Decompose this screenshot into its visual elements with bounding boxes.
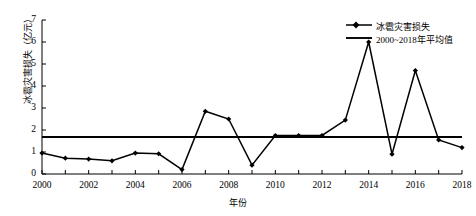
x-tick-label: 2002 bbox=[69, 180, 109, 190]
data-point-marker bbox=[436, 137, 441, 142]
x-tick-label: 2006 bbox=[162, 180, 202, 190]
x-tick-label: 2000 bbox=[22, 180, 62, 190]
x-tick-label: 2004 bbox=[115, 180, 155, 190]
data-point-marker bbox=[39, 151, 44, 156]
y-axis-ticks bbox=[42, 20, 46, 174]
y-tick-label: 7 bbox=[20, 14, 36, 24]
y-tick-label: 0 bbox=[20, 168, 36, 178]
legend-label-average: 2000~2018年平均值 bbox=[376, 33, 453, 46]
x-tick-label: 2008 bbox=[209, 180, 249, 190]
data-point-marker bbox=[86, 156, 91, 161]
hail-loss-line-chart: 冰雹灾害损失 2000~2018年平均值 冰雹灾害损失（亿元） 年份 01234… bbox=[0, 0, 476, 216]
data-point-marker bbox=[203, 109, 208, 114]
data-point-marker bbox=[366, 39, 371, 44]
y-tick-label: 1 bbox=[20, 146, 36, 156]
y-tick-label: 2 bbox=[20, 124, 36, 134]
y-tick-label: 3 bbox=[20, 102, 36, 112]
x-axis-ticks bbox=[42, 170, 462, 174]
x-tick-label: 2012 bbox=[302, 180, 342, 190]
data-point-marker bbox=[459, 145, 464, 150]
x-axis-title: 年份 bbox=[0, 196, 476, 209]
hail-loss-line bbox=[42, 42, 462, 170]
data-point-markers bbox=[39, 39, 464, 172]
y-tick-label: 6 bbox=[20, 36, 36, 46]
y-tick-label: 4 bbox=[20, 80, 36, 90]
x-tick-label: 2010 bbox=[255, 180, 295, 190]
data-point-marker bbox=[226, 116, 231, 121]
x-tick-label: 2016 bbox=[395, 180, 435, 190]
data-point-marker bbox=[389, 152, 394, 157]
x-tick-label: 2018 bbox=[442, 180, 476, 190]
data-point-marker bbox=[133, 151, 138, 156]
data-point-marker bbox=[109, 158, 114, 163]
data-point-marker bbox=[413, 68, 418, 73]
x-tick-label: 2014 bbox=[349, 180, 389, 190]
data-point-marker bbox=[63, 156, 68, 161]
y-tick-label: 5 bbox=[20, 58, 36, 68]
legend-label-series: 冰雹灾害损失 bbox=[376, 20, 430, 33]
legend-marker-diamond-icon bbox=[353, 22, 360, 29]
